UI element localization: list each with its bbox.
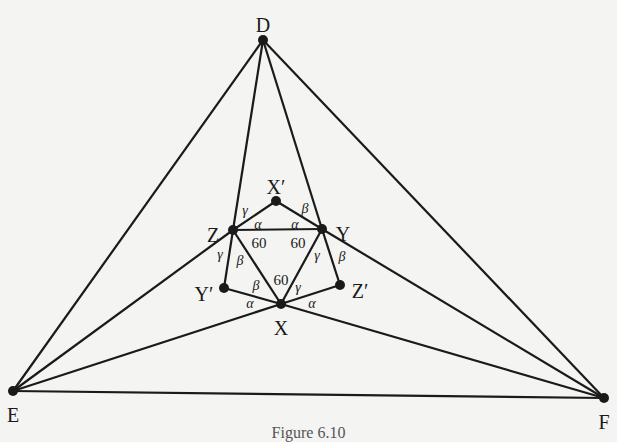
line-segments xyxy=(13,40,604,398)
angle-label: α xyxy=(254,217,262,232)
label-E: E xyxy=(7,404,19,426)
label-Y: Y xyxy=(336,223,350,245)
label-Yp: Y′ xyxy=(195,283,214,305)
angle-label: β xyxy=(301,201,309,216)
angle-label: γ xyxy=(242,203,248,218)
angle-label: β xyxy=(338,249,346,264)
angle-label: γ xyxy=(217,247,223,262)
point-E xyxy=(8,386,18,396)
figure-caption: Figure 6.10 xyxy=(0,424,617,442)
point-Y xyxy=(317,224,327,234)
segment-E-Z xyxy=(13,230,233,391)
segment-Z-Y xyxy=(233,229,322,230)
segment-E-X xyxy=(13,304,281,391)
angle-label: γ xyxy=(295,280,301,295)
point-Yp xyxy=(219,283,229,293)
label-Xp: X′ xyxy=(267,176,286,198)
segment-D-Z xyxy=(233,40,263,230)
segment-Z-Yp xyxy=(224,230,233,288)
label-Zp: Z′ xyxy=(352,280,369,302)
angle-label: 60 xyxy=(252,235,267,251)
point-X xyxy=(276,299,286,309)
label-Z: Z xyxy=(207,224,219,246)
label-X: X xyxy=(274,317,289,339)
angle-label: 60 xyxy=(291,235,306,251)
angle-label: β xyxy=(252,278,260,293)
segment-D-E xyxy=(13,40,263,391)
angle-label: α xyxy=(308,296,316,311)
segment-E-F xyxy=(13,391,604,398)
point-Zp xyxy=(335,280,345,290)
vertex-labels: DEFZYXX′Y′Z′ xyxy=(7,14,610,433)
angle-label: β xyxy=(236,253,244,268)
segment-D-F xyxy=(263,40,604,398)
point-D xyxy=(258,35,268,45)
angle-labels: γααβ6060γβγβ60βγαα xyxy=(217,201,345,311)
angle-label: γ xyxy=(314,248,320,263)
angle-label: 60 xyxy=(274,272,289,288)
segment-F-Y xyxy=(322,229,604,398)
angle-label: α xyxy=(246,296,254,311)
label-D: D xyxy=(256,14,270,36)
point-F xyxy=(599,393,609,403)
point-Z xyxy=(228,225,238,235)
angle-label: α xyxy=(291,217,299,232)
segment-F-X xyxy=(281,304,604,398)
